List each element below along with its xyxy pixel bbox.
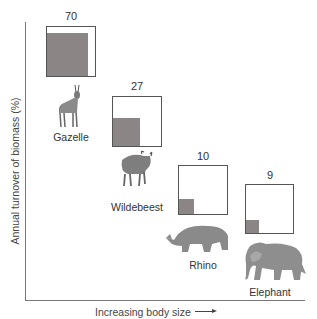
animal-label-elephant: Elephant [240,286,300,298]
wildebeest-icon [118,150,156,188]
turnover-box-wildebeest [112,96,162,147]
turnover-box-gazelle [46,26,96,77]
elephant-icon [236,240,308,284]
animal-label-rhino: Rhino [178,259,228,271]
animal-label-gazelle: Gazelle [40,131,102,143]
turnover-fill-elephant [246,220,259,233]
animal-label-wildebeest: Wildebeest [100,201,174,213]
arrow-right-icon [195,311,213,312]
turnover-fill-wildebeest [113,118,140,146]
y-axis-label: Annual turnover of biomass (%) [9,86,21,256]
gazelle-icon [56,83,86,129]
turnover-fill-gazelle [47,33,88,76]
turnover-box-rhino [178,165,228,215]
turnover-fill-rhino [179,199,194,214]
x-axis-label: Increasing body size [95,306,191,318]
value-label-wildebeest: 27 [112,80,162,92]
value-label-gazelle: 70 [46,10,96,22]
turnover-box-elephant [245,184,294,234]
rhino-icon [164,220,232,254]
value-label-rhino: 10 [178,150,228,162]
x-axis-line [25,300,305,301]
value-label-elephant: 9 [245,169,295,181]
y-axis-line [25,22,26,301]
